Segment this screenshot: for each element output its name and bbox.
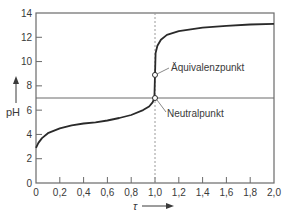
neutral-leader-line [157,100,166,112]
annotation-equivalence: Äquivalenzpunkt [157,62,245,74]
x-axis-ticks: 00,20,40,60,81,01,21,41,61,82,0 [33,177,281,198]
titration-chart: 02468101214 00,20,40,60,81,01,21,41,61,8… [0,0,292,214]
y-tick-label: 14 [21,8,33,19]
x-axis-label: τ [133,200,138,212]
y-axis-arrowhead-icon [13,76,19,84]
x-tick-label: 2,0 [267,187,281,198]
annotation-neutral: Neutralpunkt [157,100,224,119]
y-tick-label: 4 [26,129,32,140]
y-tick-label: 8 [26,80,32,91]
y-tick-label: 12 [21,32,33,43]
y-tick-label: 0 [26,178,32,189]
y-axis-label: pH [6,106,20,118]
x-tick-label: 1,0 [148,187,162,198]
point-marker [153,72,158,77]
x-tick-label: 1,2 [172,187,186,198]
x-tick-label: 0,8 [124,187,138,198]
y-tick-label: 10 [21,56,33,67]
neutral-point-label: Neutralpunkt [167,108,224,119]
y-tick-label: 6 [26,105,32,116]
x-tick-label: 0,4 [77,187,91,198]
y-axis-label-group: pH [6,76,20,118]
x-axis-label-group: τ [133,200,174,212]
equivalence-point-label: Äquivalenzpunkt [171,62,245,73]
x-tick-label: 0,6 [100,187,114,198]
x-axis-arrowhead-icon [166,203,174,209]
x-tick-label: 1,8 [243,187,257,198]
x-tick-label: 0 [33,187,39,198]
x-tick-label: 0,2 [53,187,67,198]
x-tick-label: 1,4 [196,187,210,198]
point-marker [153,96,158,101]
x-tick-label: 1,6 [219,187,233,198]
equivalence-leader-line [157,68,169,74]
y-tick-label: 2 [26,153,32,164]
